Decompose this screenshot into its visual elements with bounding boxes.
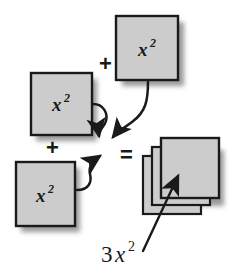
result-stack-square-front[interactable]	[161, 138, 219, 198]
plus-sign-top: +	[99, 51, 112, 76]
arrow-from-bottom-tile	[77, 156, 100, 190]
tile-top-base: x	[137, 39, 148, 60]
result-label: 3 x 2	[101, 239, 135, 267]
result-label-base: x	[114, 242, 126, 267]
algebra-tiles-diagram: x 2 x 2 x 2 + + =	[0, 0, 241, 275]
tile-bottom-square[interactable]	[16, 162, 75, 226]
result-label-coefficient: 3	[101, 242, 113, 267]
diagram-canvas: x 2 x 2 x 2 + + =	[0, 0, 241, 275]
result-stack[interactable]	[143, 138, 219, 214]
tile-top[interactable]: x 2	[116, 16, 178, 80]
equals-sign: =	[120, 142, 133, 167]
tile-bottom-exponent: 2	[47, 182, 54, 196]
tile-top-exponent: 2	[149, 36, 156, 50]
arrow-from-top-tile	[113, 82, 148, 137]
tile-middle-exponent: 2	[63, 91, 70, 105]
plus-sign-bottom: +	[46, 135, 59, 160]
tile-middle[interactable]: x 2	[31, 73, 92, 135]
tile-middle-base: x	[51, 94, 62, 115]
tile-bottom-base: x	[35, 185, 46, 206]
tile-bottom[interactable]: x 2	[16, 162, 75, 226]
result-label-exponent: 2	[128, 239, 135, 254]
tile-middle-square[interactable]	[31, 73, 92, 135]
